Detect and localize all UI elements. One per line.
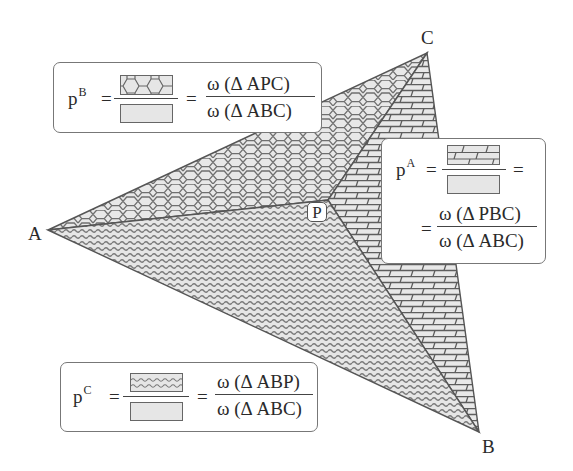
pc-swatch-total	[130, 402, 183, 421]
pb-numerator: ω (Δ APC)	[207, 74, 290, 93]
pb-fraction-line	[206, 96, 315, 97]
pb-symbol: pB	[68, 89, 87, 108]
pc-fraction-line	[215, 394, 313, 395]
pa-swatch-total	[447, 175, 500, 194]
pc-swatch-wave	[130, 373, 183, 392]
vertex-label-b: B	[482, 437, 495, 456]
pc-equals-1: =	[109, 387, 120, 406]
equation-box-pc: pC = = ω (Δ ABP) ω (Δ ABC)	[60, 362, 318, 432]
pa-fraction-line	[437, 226, 537, 227]
vertex-label-c: C	[421, 28, 434, 47]
pa-fraction-line-swatch	[442, 169, 506, 170]
pb-equals-2: =	[186, 89, 197, 108]
equation-box-pb: pB = = ω (Δ APC) ω (Δ ABC)	[53, 62, 322, 133]
pa-denominator: ω (Δ ABC)	[439, 231, 524, 250]
pc-equals-2: =	[197, 387, 208, 406]
pb-fraction-line-swatch	[114, 98, 178, 99]
pa-swatch-brick	[447, 145, 500, 165]
pa-symbol: pA	[396, 160, 415, 179]
pb-denominator: ω (Δ ABC)	[207, 101, 292, 120]
pc-numerator: ω (Δ ABP)	[217, 372, 300, 391]
pb-equals-1: =	[101, 89, 112, 108]
vertex-label-a: A	[28, 224, 42, 243]
pc-fraction-line-swatch	[123, 396, 189, 397]
equation-box-pa: pA = = = ω (Δ PBC) ω (Δ ABC)	[381, 138, 546, 264]
pb-swatch-total	[120, 104, 173, 123]
pa-equals-1: =	[426, 160, 437, 179]
pa-equals-2: =	[513, 160, 524, 179]
pc-denominator: ω (Δ ABC)	[217, 399, 302, 418]
pb-swatch-hexagon	[120, 75, 173, 95]
pc-symbol: pC	[73, 387, 92, 406]
point-p-label: P	[307, 202, 327, 222]
pa-numerator: ω (Δ PBC)	[439, 204, 521, 223]
pa-equals-3: =	[421, 219, 432, 238]
